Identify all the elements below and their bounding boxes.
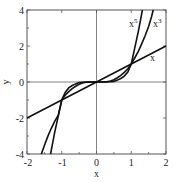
y-tick-label: 2 xyxy=(19,41,24,52)
y-tick-label: -2 xyxy=(16,113,24,124)
y-tick-label: 0 xyxy=(19,77,24,88)
curve-label-x: x xyxy=(150,52,155,63)
x-tick-label: 2 xyxy=(164,157,169,168)
y-axis-label: y xyxy=(0,80,11,85)
curve-label-x3: x3 xyxy=(153,17,162,29)
x-tick-label: -2 xyxy=(24,157,32,168)
y-tick-label: -4 xyxy=(16,149,24,160)
x-tick-label: -1 xyxy=(58,157,66,168)
x-tick-label: 0 xyxy=(94,157,99,168)
x-axis-label: x xyxy=(94,168,99,179)
curve-label-x5: x5 xyxy=(129,17,138,29)
y-tick-label: 4 xyxy=(19,5,24,16)
x-tick-label: 1 xyxy=(129,157,134,168)
y-tick-labels: 4 2 0 -2 -4 xyxy=(16,5,24,160)
chart: 4 2 0 -2 -4 -2 -1 0 1 2 x y x x5 x3 xyxy=(0,0,177,182)
x-tick-labels: -2 -1 0 1 2 xyxy=(24,157,169,168)
